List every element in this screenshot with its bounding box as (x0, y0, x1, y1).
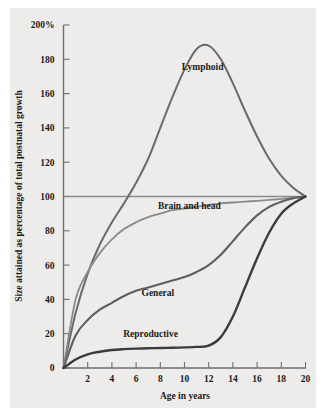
y-tick-label: 100 (40, 192, 55, 202)
curve-labels: LymphoidBrain and headGeneralReproductiv… (123, 62, 224, 340)
growth-curves-chart: 020406080100120140160180200% 24681012141… (0, 0, 326, 416)
x-tick-label: 20 (301, 374, 311, 384)
y-tick-label: 20 (45, 329, 55, 339)
figure-page: 020406080100120140160180200% 24681012141… (0, 0, 326, 416)
x-axis-title: Age in years (160, 391, 210, 401)
curve-label-lymphoid: Lymphoid (182, 62, 224, 72)
x-tick-label: 2 (85, 374, 90, 384)
curve-label-brain-and-head: Brain and head (158, 201, 222, 211)
curve-label-general: General (142, 288, 175, 298)
curve-reproductive (64, 197, 306, 369)
y-tick-label: 0 (50, 363, 55, 373)
curve-label-reproductive: Reproductive (123, 329, 178, 339)
y-tick-label: 160 (40, 89, 55, 99)
x-tick-label: 8 (158, 374, 163, 384)
y-tick-label: 40 (45, 295, 55, 305)
y-axis-tick-labels: 020406080100120140160180200% (31, 20, 55, 373)
y-tick-label: 180 (40, 55, 55, 65)
x-tick-label: 10 (180, 374, 190, 384)
x-tick-label: 12 (204, 374, 214, 384)
y-tick-label: 140 (40, 123, 55, 133)
y-tick-label: 120 (40, 158, 55, 168)
curve-brain-and-head (64, 197, 306, 369)
y-axis-title: Size attained as percentage of total pos… (14, 90, 24, 302)
x-tick-label: 4 (110, 374, 115, 384)
x-tick-label: 6 (134, 374, 139, 384)
x-tick-label: 14 (228, 374, 238, 384)
x-tick-label: 16 (252, 374, 262, 384)
x-tick-label: 18 (277, 374, 287, 384)
curve-general (64, 197, 306, 369)
y-tick-label: 200% (31, 20, 55, 30)
y-tick-label: 60 (45, 261, 55, 271)
x-axis-tick-labels: 2468101214161820 (85, 374, 310, 384)
x-axis-ticks (88, 362, 306, 368)
y-tick-label: 80 (45, 226, 55, 236)
